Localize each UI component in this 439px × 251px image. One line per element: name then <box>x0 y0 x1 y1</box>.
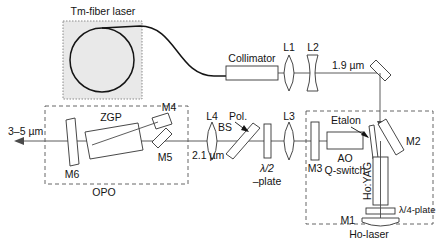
mirror-m2-optic <box>378 119 404 155</box>
l2-label: L2 <box>307 41 319 53</box>
m6-label: M6 <box>65 168 80 180</box>
half-wave-plate-label-line2: –plate <box>253 175 282 187</box>
pump-wavelength-label: 1.9 µm <box>332 59 365 71</box>
q-switch-label: Q-switch <box>325 164 366 176</box>
ho-laser-module-label: Ho-laser <box>349 228 389 240</box>
tm-fiber-laser-box <box>63 21 142 99</box>
ho-yag-label: Ho:YAG <box>361 162 373 200</box>
lens-l1-optic <box>284 55 294 91</box>
ao-label: AO <box>337 152 352 164</box>
mirror-m4-optic <box>152 113 172 129</box>
l1-label: L1 <box>283 41 295 53</box>
l3-label: L3 <box>283 110 295 122</box>
m5-label: M5 <box>158 151 173 163</box>
tm-fiber-laser-label: Tm-fiber laser <box>71 5 136 17</box>
m4-label: M4 <box>162 101 177 113</box>
opo-module-label: OPO <box>92 186 115 198</box>
half-wave-plate-label-line1: λ/2 <box>259 162 274 174</box>
bs-label: BS <box>218 121 232 133</box>
etalon-optic <box>369 125 378 159</box>
half-wave-plate-optic <box>264 124 271 158</box>
opo-input-wavelength-label: 2.1 µm <box>192 149 225 161</box>
diagram-canvas: Tm-fiber laser Collimator L1 L2 1.9 µm 3… <box>0 0 439 251</box>
lens-l3-optic <box>284 122 294 160</box>
m3-label: M3 <box>308 162 323 174</box>
ao-q-switch-optic <box>327 132 363 149</box>
etalon-label: Etalon <box>331 114 361 126</box>
zgp-label: ZGP <box>100 111 122 123</box>
collimator-optic <box>226 66 278 80</box>
mirror-m3-optic <box>311 122 319 160</box>
quarter-wave-plate-label: λ/4-plate <box>399 204 435 215</box>
mirror-m1-optic <box>362 218 399 226</box>
m1-label: M1 <box>340 214 355 226</box>
mirror-m5-optic <box>152 128 172 148</box>
mirror-m6-optic <box>66 118 79 166</box>
steering-mirror-optic <box>370 60 391 81</box>
m2-label: M2 <box>406 135 421 147</box>
output-wavelength-label: 3–5 µm <box>8 125 43 137</box>
zgp-crystal-optic <box>85 123 143 159</box>
l4-label: L4 <box>206 110 218 122</box>
collimator-label: Collimator <box>228 52 276 64</box>
optical-setup-diagram: Tm-fiber laser Collimator L1 L2 1.9 µm 3… <box>0 0 439 251</box>
output-beam-arrowhead <box>14 137 24 145</box>
